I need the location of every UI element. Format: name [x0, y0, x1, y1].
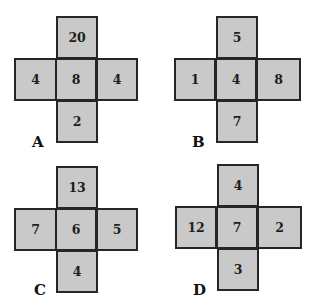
cell-right: 5 — [96, 208, 138, 251]
cell-center: 7 — [216, 206, 258, 249]
cell-right: 8 — [256, 58, 301, 101]
cell-top: 13 — [56, 166, 98, 209]
puzzle-label: D — [193, 281, 206, 299]
cell-center: 4 — [215, 58, 257, 101]
cell-bottom: 4 — [56, 250, 98, 293]
cell-center: 8 — [55, 58, 97, 101]
cell-right: 4 — [96, 58, 138, 101]
puzzle-label: A — [32, 133, 44, 151]
puzzle-label: C — [34, 281, 46, 299]
cross-puzzle-d: 4 12 7 2 3 D — [175, 164, 312, 308]
cell-top: 20 — [56, 16, 98, 59]
cell-left: 1 — [174, 58, 216, 101]
cell-left: 12 — [175, 206, 217, 249]
cross-puzzle-c: 13 7 6 5 4 C — [14, 166, 170, 308]
cell-bottom: 7 — [216, 100, 258, 143]
cross-puzzle-a: 20 4 8 4 2 A — [14, 16, 170, 170]
cross-puzzle-b: 5 1 4 8 7 B — [174, 16, 312, 170]
cell-left: 7 — [14, 208, 57, 251]
cell-top: 4 — [217, 164, 259, 207]
cell-center: 6 — [55, 208, 97, 251]
cell-right: 2 — [257, 206, 302, 249]
cell-top: 5 — [216, 16, 258, 59]
cell-bottom: 3 — [217, 248, 259, 291]
puzzle-label: B — [192, 133, 205, 151]
cell-left: 4 — [14, 58, 57, 101]
cell-bottom: 2 — [56, 100, 98, 143]
